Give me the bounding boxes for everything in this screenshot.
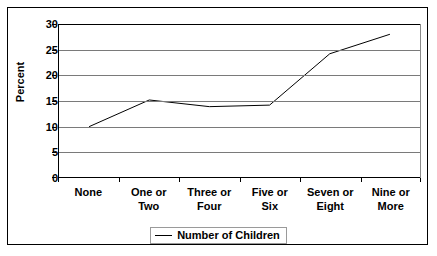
- y-tick-mark-20: [52, 75, 56, 76]
- x-axis-label-2: Three or Four: [179, 185, 240, 223]
- legend: Number of Children: [8, 227, 429, 244]
- x-axis-label-3: Five or Six: [240, 185, 301, 223]
- x-axis-label-1: One or Two: [119, 185, 180, 223]
- chart-frame: Percent 051015202530 NoneOne or TwoThree…: [7, 7, 428, 245]
- gridline-5: [59, 152, 420, 153]
- legend-label: Number of Children: [177, 229, 280, 241]
- gridline-30: [59, 24, 420, 25]
- x-tick-mark-6: [420, 178, 421, 182]
- x-tick-mark-3: [240, 178, 241, 182]
- x-tick-mark-2: [179, 178, 180, 182]
- y-tick-mark-15: [52, 101, 56, 102]
- x-axis-label-0: None: [58, 185, 119, 223]
- x-tick-mark-4: [300, 178, 301, 182]
- y-tick-mark-25: [52, 50, 56, 51]
- y-tick-mark-30: [52, 24, 56, 25]
- y-axis-tick-labels: 051015202530: [8, 24, 58, 178]
- plot-area: [58, 24, 421, 178]
- x-tick-mark-5: [361, 178, 362, 182]
- x-axis-label-5: Nine or More: [361, 185, 422, 223]
- legend-line-swatch-icon: [155, 235, 172, 236]
- gridline-10: [59, 127, 420, 128]
- x-tick-mark-0: [58, 178, 59, 182]
- gridline-20: [59, 75, 420, 76]
- x-tick-mark-1: [119, 178, 120, 182]
- gridline-25: [59, 50, 420, 51]
- x-axis-ticks: [58, 178, 421, 183]
- y-tick-mark-10: [52, 127, 56, 128]
- y-tick-mark-5: [52, 152, 56, 153]
- y-tick-label-0: 0: [12, 173, 58, 184]
- x-axis-labels: NoneOne or TwoThree or FourFive or SixSe…: [58, 185, 421, 223]
- x-axis-label-4: Seven or Eight: [300, 185, 361, 223]
- y-tick-mark-0: [52, 177, 56, 178]
- gridline-15: [59, 101, 420, 102]
- legend-box: Number of Children: [150, 227, 287, 244]
